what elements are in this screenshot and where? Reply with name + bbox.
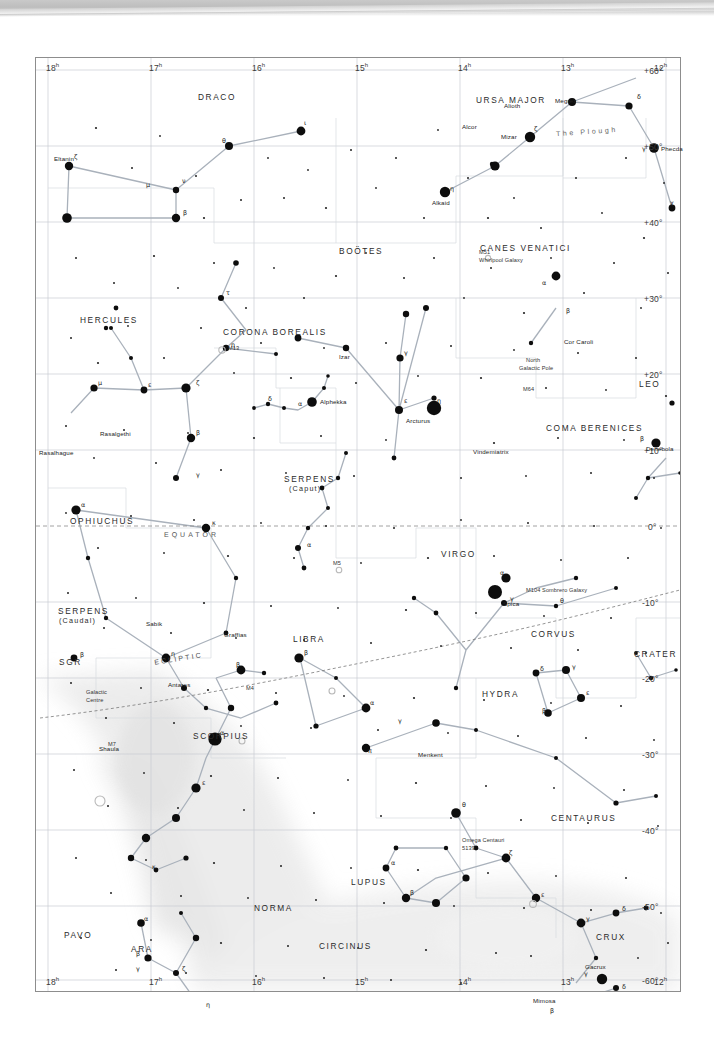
bayer-delta-cru: δ <box>622 984 626 990</box>
bayer-delta-cen: δ <box>622 906 626 912</box>
ra-tick-16h-top: 16h <box>252 62 265 72</box>
constellation-sagittarius-abbr: SGR <box>59 658 82 666</box>
ra-tick-17h-top: 17h <box>149 62 162 72</box>
constellation-draco: DRACO <box>198 93 236 101</box>
star-label-izar: Izar <box>339 354 350 360</box>
bayer-zeta-dra: ζ <box>74 154 77 160</box>
bayer-kappa-sco: κ <box>152 864 156 870</box>
equator-label: EQUATOR <box>164 531 219 538</box>
bayer-alpha-crb: α <box>298 401 302 407</box>
bayer-gamma-uma: γ <box>642 146 646 152</box>
constellation-lupus: LUPUS <box>351 878 387 886</box>
dec-tick-p40: +40° <box>644 219 663 228</box>
bayer-eta-oph: η <box>171 651 175 657</box>
dec-tick-m50: -50° <box>642 903 658 912</box>
ra-tick-14h-top: 14h <box>458 62 471 72</box>
ra-tick-16h-bottom: 16h <box>252 976 265 986</box>
star-label-alioth: Alioth <box>504 103 520 109</box>
bayer-alpha-cvn: α <box>542 280 546 286</box>
ra-tick-18h-top: 18h <box>46 62 59 72</box>
bayer-gamma-boo: γ <box>404 350 408 356</box>
constellation-ara: ARA <box>131 945 153 953</box>
constellation-serpens-cauda-sub: (Caudal) <box>59 617 96 624</box>
bayer-gamma-cru: γ <box>584 971 588 977</box>
bayer-pi-hya: π <box>368 748 372 754</box>
dec-tick-0: 0° <box>648 523 657 532</box>
dso-label-m4: M4 <box>246 686 254 692</box>
bayer-zeta-her: ζ <box>196 380 199 386</box>
constellation-norma: NORMA <box>254 904 293 912</box>
star-label-denebola: Denebola <box>646 446 674 452</box>
bayer-epsilon-her: ε <box>148 382 151 388</box>
bayer-gamma-vir: γ <box>510 596 514 602</box>
bayer-epsilon-crv: ε <box>586 690 589 696</box>
bayer-alpha-ara: α <box>144 916 148 922</box>
constellation-canes-venatici: CANES VENATICI <box>480 244 571 252</box>
constellation-crater: CRATER <box>634 650 677 658</box>
constellation-pavo: PAVO <box>64 931 92 939</box>
bayer-zeta-cen: ζ <box>509 850 512 856</box>
dec-tick-m30: -30° <box>642 751 658 760</box>
bayer-theta-vir: θ <box>560 598 564 604</box>
star-label-alphekka: Alphekka <box>320 399 347 405</box>
star-label-vindemiatrix: Vindemiatrix <box>473 449 509 455</box>
bayer-eta-ara: η <box>206 1002 210 1008</box>
star-label-gacrux: Gacrux <box>585 964 606 970</box>
bayer-alpha-vir: α <box>500 570 504 576</box>
ra-tick-15h-top: 15h <box>355 62 368 72</box>
dec-tick-p30: +30° <box>644 295 663 304</box>
constellation-coma-berenices: COMA BERENICES <box>546 424 643 432</box>
bayer-nu-dra: ν <box>182 178 186 184</box>
bayer-epsilon-sco: ε <box>202 780 205 786</box>
star-label-arcturus: Arcturus <box>406 418 430 424</box>
bayer-beta-crv: β <box>542 708 546 714</box>
dec-tick-m60: -60° <box>642 977 658 986</box>
dec-tick-p60: +60° <box>644 67 663 76</box>
constellation-centaurus: CENTAURUS <box>551 814 616 822</box>
ra-tick-14h-bottom: 14h <box>458 976 471 986</box>
star-label-graffias: Graffias <box>224 632 247 638</box>
bayer-mu-dra: μ <box>146 182 150 188</box>
dso-label-m104: M104 Sombrero Galaxy <box>526 588 587 594</box>
bayer-zeta-uma: ζ <box>534 126 537 132</box>
bayer-beta-cvn: β <box>566 308 570 314</box>
star-label-alcor: Alcor <box>462 124 477 130</box>
constellation-corona-borealis: CORONA BOREALIS <box>223 328 327 336</box>
star-chart-frame: 18h 17h 16h 15h 14h 13h 12h 18h 17h 16h … <box>35 57 681 992</box>
bayer-delta-crb: δ <box>268 396 272 402</box>
bayer-epsilon-boo: ε <box>404 398 407 404</box>
bayer-alpha-sco: α <box>220 730 224 736</box>
star-label-mimosa: Mimosa <box>533 998 556 1004</box>
constellation-virgo: VIRGO <box>441 550 476 558</box>
bayer-theta-cen: θ <box>462 802 466 808</box>
bayer-gamma-her: γ <box>196 472 200 478</box>
star-label-megrez: Megrez <box>555 98 577 104</box>
bayer-beta-ara: β <box>136 951 140 957</box>
bayer-kappa-oph: κ <box>212 520 216 526</box>
bayer-alpha-lup: α <box>391 860 395 866</box>
star-label-rasalgethi: Rasalgethi <box>100 431 131 437</box>
dec-tick-m40: -40° <box>642 827 658 836</box>
dso-label-omega-centauri: Omega Centauri <box>462 838 504 844</box>
star-label-alkaid: Alkaid <box>432 200 450 206</box>
bayer-gamma-ara: γ <box>136 966 140 972</box>
bayer-zeta-ara: ζ <box>182 966 185 972</box>
ra-tick-18h-bottom: 18h <box>46 976 59 986</box>
ra-tick-13h-top: 13h <box>561 62 574 72</box>
bayer-iota-dra: ι <box>304 120 306 126</box>
dec-tick-m20: -20° <box>642 675 658 684</box>
dec-tick-p50: +50° <box>644 143 663 152</box>
bayer-beta-leo: β <box>640 436 644 442</box>
ra-tick-15h-bottom: 15h <box>355 976 368 986</box>
bayer-chi-uma: χ <box>670 200 674 206</box>
bayer-beta-sco: β <box>236 662 240 668</box>
constellation-hydra: HYDRA <box>482 690 519 698</box>
bayer-gamma-crv: γ <box>572 664 576 670</box>
bayer-eta-uma: η <box>450 186 454 192</box>
dso-label-m51: M51 <box>479 250 490 256</box>
star-label-menkent: Menkent <box>418 752 443 758</box>
bayer-beta-dra: β <box>183 210 187 216</box>
star-label-sabik: Sabik <box>146 621 162 627</box>
dso-label-m7: M7 <box>108 742 116 748</box>
dec-tick-m10: -10° <box>642 599 658 608</box>
